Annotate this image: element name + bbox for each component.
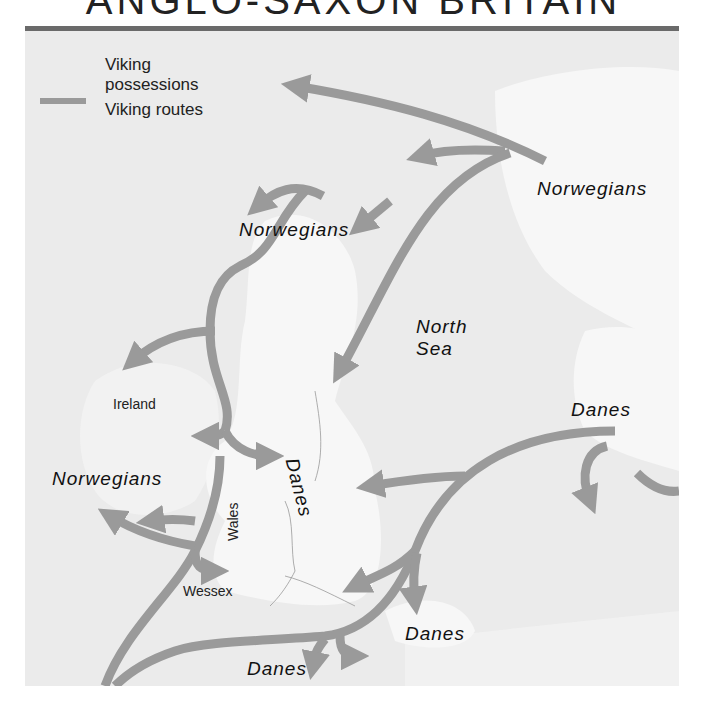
label-norwegians-scotland: Norwegians	[239, 219, 349, 241]
map-graphics	[25, 31, 679, 686]
label-norwegians-ireland: Norwegians	[52, 468, 162, 490]
label-danes-denmark: Danes	[571, 399, 631, 421]
label-ireland: Ireland	[113, 396, 156, 412]
label-danes-france: Danes	[247, 658, 307, 680]
label-north-sea: North Sea	[416, 316, 467, 360]
legend-possessions-label: Viking possessions	[105, 55, 265, 95]
label-wales: Wales	[225, 503, 241, 541]
label-wessex: Wessex	[183, 583, 233, 599]
legend-route-swatch	[40, 98, 86, 104]
map-canvas: Viking possessions Viking routes Norwegi…	[25, 31, 679, 686]
map-title: ANGLO-SAXON BRITAIN	[0, 0, 707, 23]
legend-routes-label: Viking routes	[105, 100, 265, 120]
label-danes-frisia: Danes	[405, 623, 465, 645]
label-norwegians-east: Norwegians	[537, 178, 647, 200]
